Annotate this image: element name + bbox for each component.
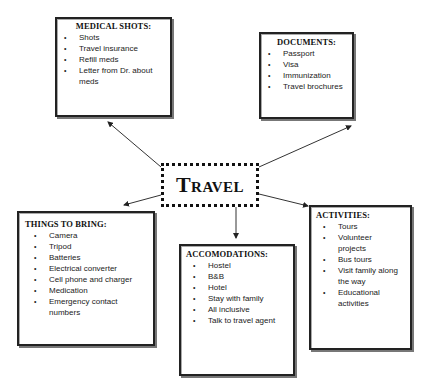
list-item: Stay with family (208, 293, 293, 304)
list-item: Travel insurance (79, 43, 170, 54)
central-topic: Travel (161, 163, 259, 207)
list-item: Medication (49, 285, 149, 296)
things-to-bring-box: THINGS TO BRING: Camera Tripod Batteries… (17, 211, 155, 346)
list-item: Travel brochures (283, 81, 352, 92)
list-item: Bus tours (338, 254, 407, 265)
list-item: Emergency contact numbers (49, 296, 131, 318)
list-item: Cell phone and charger (49, 274, 149, 285)
box-heading: ACTIVITIES: (311, 207, 410, 221)
activities-box: ACTIVITIES: Tours Volunteer projects Bus… (309, 205, 412, 350)
list-item: B&B (208, 271, 293, 282)
documents-box: DOCUMENTS: Passport Visa Immunization Tr… (259, 32, 354, 119)
list-item: Visit family along the way (338, 265, 406, 287)
box-heading: ACCOMODATIONS: (181, 246, 293, 260)
list-item: Refill meds (79, 54, 170, 65)
list-item: Electrical converter (49, 263, 149, 274)
list-item: Visa (283, 59, 352, 70)
list-item: Shots (79, 32, 170, 43)
list-item: Hotel (208, 282, 293, 293)
list-item: All inclusive (208, 304, 293, 315)
list-item: Immunization (283, 70, 352, 81)
list-item: Tours (338, 221, 407, 232)
list-item: Camera (49, 230, 149, 241)
list-item: Volunteer projects (338, 232, 398, 254)
box-heading: DOCUMENTS: (261, 34, 352, 48)
box-heading: THINGS TO BRING: (19, 213, 153, 230)
box-heading: MEDICAL SHOTS: (57, 19, 170, 32)
accommodations-box: ACCOMODATIONS: Hostel B&B Hotel Stay wit… (179, 244, 295, 376)
list-item: Tripod (49, 241, 149, 252)
list-item: Letter from Dr. about meds (79, 65, 170, 87)
list-item: Hostel (208, 260, 293, 271)
central-title: Travel (176, 172, 244, 198)
list-item: Talk to travel agent (208, 315, 293, 326)
medical-shots-box: MEDICAL SHOTS: Shots Travel insurance Re… (55, 17, 172, 117)
list-item: Passport (283, 48, 352, 59)
list-item: Educational activities (338, 287, 398, 309)
list-item: Batteries (49, 252, 149, 263)
